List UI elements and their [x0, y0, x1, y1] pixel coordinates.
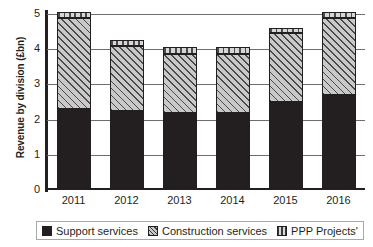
y-axis-tick-labels: 543210: [10, 14, 40, 190]
bar-segment[interactable]: [163, 54, 197, 112]
y-axis-tick-label: 5: [14, 8, 40, 19]
ppp-projects-swatch-icon: [277, 226, 287, 236]
x-axis-tick-label: 2014: [206, 193, 260, 207]
x-axis-tick-label: 2016: [312, 193, 366, 207]
bar-segment[interactable]: [110, 46, 144, 111]
legend-label: Construction services: [162, 225, 267, 237]
bar-group[interactable]: [110, 14, 144, 190]
bar-group[interactable]: [216, 14, 250, 190]
construction-services-swatch-icon: [148, 226, 158, 236]
bar-group[interactable]: [322, 14, 356, 190]
gridline: [47, 84, 365, 85]
bar-segment[interactable]: [163, 47, 197, 54]
support-services-swatch-icon: [42, 226, 52, 236]
bar-segment[interactable]: [269, 33, 303, 102]
x-axis-tick-labels: 201120122013201420152016: [47, 193, 365, 211]
bar-segment[interactable]: [269, 102, 303, 190]
gridline: [47, 155, 365, 156]
legend-label: PPP Projects': [291, 225, 358, 237]
bar-segment[interactable]: [57, 109, 91, 190]
gridline: [47, 14, 365, 15]
y-axis-tick-label: 1: [14, 149, 40, 160]
x-axis-tick-label: 2013: [153, 193, 207, 207]
y-axis-tick-label: 2: [14, 114, 40, 125]
bar-segment[interactable]: [163, 113, 197, 190]
bar-segment[interactable]: [216, 54, 250, 112]
bar-group[interactable]: [269, 14, 303, 190]
bar-segment[interactable]: [216, 113, 250, 190]
x-axis-tick-label: 2015: [259, 193, 313, 207]
legend-item[interactable]: PPP Projects': [277, 225, 358, 237]
bar-segment[interactable]: [216, 47, 250, 54]
y-axis-tick-label: 4: [14, 43, 40, 54]
chart-figure: Revenue by division (£bn) 543210 2011201…: [0, 0, 373, 247]
plot-inner: [47, 14, 365, 190]
legend-label: Support services: [56, 225, 138, 237]
y-axis-tick-label: 0: [14, 184, 40, 195]
x-axis-tick-label: 2012: [100, 193, 154, 207]
bar-group[interactable]: [163, 14, 197, 190]
legend-item[interactable]: Support services: [42, 225, 138, 237]
bar-segment[interactable]: [322, 18, 356, 95]
gridline: [47, 188, 365, 190]
bar-segment[interactable]: [322, 95, 356, 190]
bar-segment[interactable]: [57, 12, 91, 17]
legend-item[interactable]: Construction services: [148, 225, 267, 237]
bar-segment[interactable]: [57, 18, 91, 110]
bar-segment[interactable]: [269, 28, 303, 33]
bar-segment[interactable]: [322, 12, 356, 17]
gridline: [47, 120, 365, 121]
gridline: [47, 49, 365, 50]
bar-group[interactable]: [57, 14, 91, 190]
x-axis-tick-label: 2011: [47, 193, 101, 207]
y-axis-tick-label: 3: [14, 78, 40, 89]
bar-segment[interactable]: [110, 111, 144, 190]
chart-legend: Support servicesConstruction servicesPPP…: [36, 221, 364, 240]
plot-area: [47, 14, 365, 190]
bar-segment[interactable]: [110, 40, 144, 45]
